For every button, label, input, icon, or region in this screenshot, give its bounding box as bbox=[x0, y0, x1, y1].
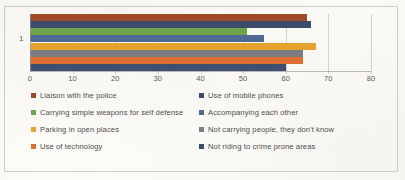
legend-swatch-icon bbox=[199, 144, 204, 149]
legend-item[interactable]: Use of technology bbox=[31, 142, 199, 151]
value-axis-tick-label: 70 bbox=[324, 74, 333, 83]
legend-swatch-icon bbox=[31, 127, 36, 132]
bar-6 bbox=[30, 50, 303, 57]
value-axis-tick-label: 20 bbox=[111, 74, 120, 83]
legend-item-label: Not riding to crime prone areas bbox=[208, 142, 315, 151]
bar-3 bbox=[30, 28, 247, 35]
legend-item[interactable]: Not carrying people, they don't know bbox=[199, 125, 391, 134]
legend-swatch-icon bbox=[199, 93, 204, 98]
legend-swatch-icon bbox=[199, 110, 204, 115]
legend-item-label: Carrying simple weapons for self defense bbox=[40, 108, 183, 117]
value-axis-tick-label: 30 bbox=[154, 74, 163, 83]
legend-swatch-icon bbox=[31, 144, 36, 149]
category-axis-line bbox=[30, 71, 371, 72]
legend-swatch-icon bbox=[31, 110, 36, 115]
value-axis-tick-label: 50 bbox=[239, 74, 248, 83]
legend-swatch-icon bbox=[31, 93, 36, 98]
legend-item-label: Accompanying each other bbox=[208, 108, 298, 117]
category-axis-label: 1 bbox=[19, 34, 23, 43]
legend-item-label: Parking in open places bbox=[40, 125, 119, 134]
legend-item-label: Use of mobile phones bbox=[208, 91, 283, 100]
legend-item[interactable]: Use of mobile phones bbox=[199, 91, 391, 100]
bar-5 bbox=[30, 43, 316, 50]
chart-legend: Liaison with the policeUse of mobile pho… bbox=[31, 87, 391, 155]
value-axis-tick-label: 0 bbox=[28, 74, 32, 83]
plot-area bbox=[30, 14, 371, 71]
legend-item[interactable]: Not riding to crime prone areas bbox=[199, 142, 391, 151]
legend-item[interactable]: Liaison with the police bbox=[31, 91, 199, 100]
legend-item-label: Not carrying people, they don't know bbox=[208, 125, 334, 134]
legend-item[interactable]: Carrying simple weapons for self defense bbox=[31, 108, 199, 117]
value-axis-tick-label: 10 bbox=[68, 74, 77, 83]
bar-1 bbox=[30, 14, 307, 21]
value-axis-tick-label: 80 bbox=[367, 74, 376, 83]
legend-item[interactable]: Parking in open places bbox=[31, 125, 199, 134]
legend-item-label: Use of technology bbox=[40, 142, 103, 151]
bar-2 bbox=[30, 21, 311, 28]
legend-item-label: Liaison with the police bbox=[40, 91, 117, 100]
bar-8 bbox=[30, 64, 286, 71]
value-axis-tick-label: 40 bbox=[196, 74, 205, 83]
value-axis-tick-label: 60 bbox=[281, 74, 290, 83]
value-axis-origin-line bbox=[30, 14, 31, 72]
bar-group bbox=[30, 14, 371, 71]
bar-7 bbox=[30, 57, 303, 64]
legend-item[interactable]: Accompanying each other bbox=[199, 108, 391, 117]
gridline bbox=[371, 14, 372, 74]
legend-swatch-icon bbox=[199, 127, 204, 132]
bar-4 bbox=[30, 35, 264, 42]
